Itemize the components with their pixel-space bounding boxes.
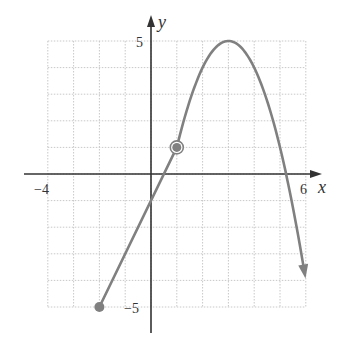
curve-arrow-icon: [298, 264, 308, 279]
axes: [24, 15, 322, 333]
x-axis-label: x: [317, 177, 326, 197]
closed-endpoint: [94, 302, 104, 312]
function-graph: −4 6 5 −5 x y: [0, 0, 348, 349]
y-axis-arrow-icon: [147, 15, 155, 27]
parabola-curve: [177, 41, 305, 273]
x-tick-min: −4: [34, 182, 49, 197]
y-tick-max: 5: [136, 35, 143, 50]
x-tick-max: 6: [300, 182, 307, 197]
closed-endpoint: [172, 143, 181, 152]
y-tick-min: −5: [124, 301, 139, 316]
y-axis-label: y: [156, 12, 166, 32]
